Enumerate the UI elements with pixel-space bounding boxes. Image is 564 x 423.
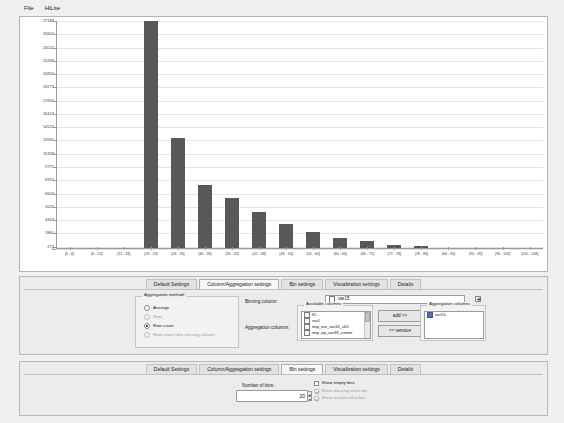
x-axis-tick-label: (36 - 42] xyxy=(218,253,245,265)
checkbox-icon[interactable] xyxy=(314,381,319,386)
histogram-bar[interactable] xyxy=(252,212,266,249)
x-axis-tick-mark xyxy=(462,247,489,250)
bar-cell[interactable] xyxy=(56,21,83,249)
x-axis-tick-label: (42 - 48] xyxy=(245,253,272,265)
histogram-bar[interactable] xyxy=(171,138,185,249)
menu-item-hilite[interactable]: HiLite xyxy=(45,5,60,11)
aggregation-method-group: Aggregation method: AverageSumRow countR… xyxy=(135,296,239,348)
bar-cell[interactable] xyxy=(462,21,489,249)
checkbox-show-empty-bins[interactable]: Show empty bins xyxy=(314,381,367,386)
blue-square-icon xyxy=(427,312,433,319)
number-of-bins-label: Number of bins: xyxy=(242,383,274,388)
bottom-tab-details[interactable]: Details xyxy=(390,364,421,374)
stepper-buttons[interactable] xyxy=(307,391,312,401)
radio-icon[interactable] xyxy=(144,332,150,338)
list-item-label: ID xyxy=(312,313,316,317)
radio-icon[interactable] xyxy=(144,323,150,329)
close-icon[interactable] xyxy=(475,296,481,302)
bar-cell[interactable] xyxy=(218,21,245,249)
remove-button[interactable]: << remove xyxy=(378,325,422,337)
bar-series xyxy=(56,21,543,249)
stepper-down-icon[interactable] xyxy=(307,396,312,401)
bottom-tab-column-aggregation-settings[interactable]: Column/Aggregation settings xyxy=(199,364,279,374)
bar-cell[interactable] xyxy=(110,21,137,249)
menu-bar: File HiLite xyxy=(0,0,564,16)
radio-icon[interactable] xyxy=(144,314,150,320)
radio-icon[interactable] xyxy=(144,305,150,311)
radio-label: Sum xyxy=(153,315,162,319)
checkbox-show-missing-value-bin[interactable]: Show missing value bin xyxy=(314,389,367,394)
bar-cell[interactable] xyxy=(245,21,272,249)
radio-option-sum[interactable]: Sum xyxy=(144,314,238,320)
number-of-bins-stepper[interactable]: 20 xyxy=(236,390,308,402)
middle-tab-column-aggregation-settings[interactable]: Column/Aggregation settings xyxy=(199,279,279,289)
available-columns-scrollbar[interactable] xyxy=(364,312,370,338)
aggregation-method-options: AverageSumRow countRow count (w/o missin… xyxy=(136,297,238,338)
radio-option-row-count-w-o-missing-values[interactable]: Row count (w/o missing values) xyxy=(144,332,238,338)
radio-label: Row count (w/o missing values) xyxy=(153,333,215,337)
aggregation-columns-label: Aggregation columns: xyxy=(245,325,289,330)
bin-settings-panel: Default SettingsColumn/Aggregation setti… xyxy=(19,361,548,416)
x-axis-tick-label: (102 - 108] xyxy=(516,253,543,265)
x-axis-tick-label: (90 - 96] xyxy=(462,253,489,265)
column-aggregation-settings-panel: Default SettingsColumn/Aggregation setti… xyxy=(19,276,548,355)
x-axis-tick-mark xyxy=(489,247,516,250)
checkbox-show-invalid-value-bin[interactable]: Show invalid value bin xyxy=(314,396,367,401)
bar-cell[interactable] xyxy=(273,21,300,249)
bottom-tab-bin-settings[interactable]: Bin settings xyxy=(281,364,323,374)
bar-cell[interactable] xyxy=(164,21,191,249)
checkbox-label: Show missing value bin xyxy=(322,389,368,393)
list-item-label: imp_op_var39_comer xyxy=(312,331,353,335)
binning-column-label: Binning column: xyxy=(245,299,278,304)
middle-tab-details[interactable]: Details xyxy=(390,279,421,289)
bottom-tabstrip: Default SettingsColumn/Aggregation setti… xyxy=(20,362,547,374)
radio-option-average[interactable]: Average xyxy=(144,305,238,311)
middle-tab-bin-settings[interactable]: Bin settings xyxy=(281,279,323,289)
y-axis-line xyxy=(56,21,57,249)
radio-option-row-count[interactable]: Row count xyxy=(144,323,238,329)
middle-tab-default-settings[interactable]: Default Settings xyxy=(146,279,197,289)
bar-cell[interactable] xyxy=(408,21,435,249)
selected-columns-title: Aggregation columns xyxy=(427,302,472,306)
radio-label: Row count xyxy=(153,324,174,328)
x-axis-tick-mark xyxy=(381,247,408,250)
bar-cell[interactable] xyxy=(489,21,516,249)
bar-cell[interactable] xyxy=(435,21,462,249)
selected-columns-list[interactable]: var15 xyxy=(424,311,484,339)
checkbox-icon[interactable] xyxy=(314,396,319,401)
bar-cell[interactable] xyxy=(327,21,354,249)
x-axis-tick-label: (72 - 78] xyxy=(381,253,408,265)
histogram-bar[interactable] xyxy=(225,198,239,249)
x-axis-tick-label: (84 - 90] xyxy=(435,253,462,265)
bar-cell[interactable] xyxy=(516,21,543,249)
scrollbar-thumb[interactable] xyxy=(365,312,370,322)
list-item[interactable]: imp_op_var39_comer xyxy=(302,330,370,336)
x-axis-tick-label: (18 - 24] xyxy=(137,253,164,265)
bottom-tab-visualization-settings[interactable]: Visualization settings xyxy=(325,364,388,374)
number-of-bins-value: 20 xyxy=(299,394,305,399)
histogram-bar[interactable] xyxy=(279,224,293,249)
checkbox-icon[interactable] xyxy=(314,389,319,394)
histogram-chart-panel[interactable]: 2718825605240222243920856192731769016107… xyxy=(19,16,548,272)
x-axis-tick-mark xyxy=(191,247,218,250)
bar-cell[interactable] xyxy=(354,21,381,249)
double-icon xyxy=(304,330,310,337)
menu-item-file[interactable]: File xyxy=(24,5,34,11)
histogram-bar[interactable] xyxy=(198,185,212,249)
bar-cell[interactable] xyxy=(137,21,164,249)
add-button[interactable]: add >> xyxy=(378,310,422,322)
aggregation-method-title: Aggregation method: xyxy=(142,293,187,297)
x-axis-tick-mark xyxy=(218,247,245,250)
list-item[interactable]: var15 xyxy=(425,312,483,318)
bar-cell[interactable] xyxy=(191,21,218,249)
bottom-tab-default-settings[interactable]: Default Settings xyxy=(146,364,197,374)
bar-cell[interactable] xyxy=(381,21,408,249)
available-columns-list[interactable]: IDvar1imp_am_var16_ult1imp_op_var39_come… xyxy=(301,311,371,339)
histogram-bar[interactable] xyxy=(144,21,158,249)
x-axis-tick-label: (12 - 18] xyxy=(110,253,137,265)
bar-cell[interactable] xyxy=(300,21,327,249)
x-axis-tick-label: (66 - 72] xyxy=(354,253,381,265)
x-axis-tick-mark xyxy=(137,247,164,250)
middle-tab-visualization-settings[interactable]: Visualization settings xyxy=(325,279,388,289)
bar-cell[interactable] xyxy=(83,21,110,249)
